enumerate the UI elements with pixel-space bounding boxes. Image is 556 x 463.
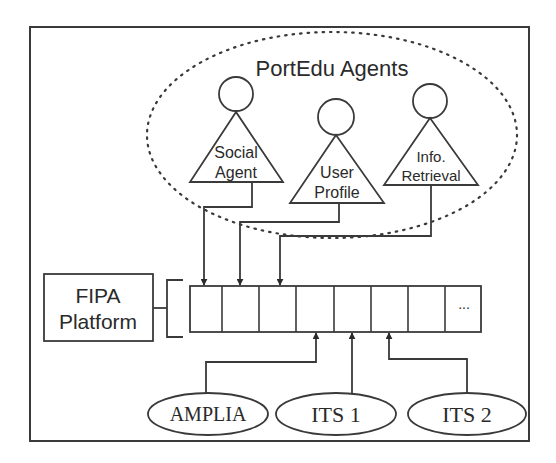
arrow-profile-to-queue bbox=[240, 203, 339, 285]
system-label: AMPLIA bbox=[170, 403, 247, 425]
agent-head-icon bbox=[219, 77, 253, 111]
agent-label-line2: Agent bbox=[215, 164, 257, 181]
system-label: ITS 1 bbox=[311, 402, 361, 427]
portedu-architecture-diagram: PortEdu Agents Social Agent User Profile… bbox=[0, 0, 556, 463]
agent-social-agent: Social Agent bbox=[190, 77, 283, 182]
agent-label-line2: Profile bbox=[314, 184, 359, 201]
system-amplia: AMPLIA bbox=[148, 393, 268, 435]
outer-frame bbox=[30, 27, 529, 441]
agent-user-profile: User Profile bbox=[290, 99, 384, 203]
arrow-its2-to-queue bbox=[389, 333, 467, 393]
agent-head-icon bbox=[413, 84, 447, 118]
system-its2: ITS 2 bbox=[408, 393, 526, 435]
agent-label-line1: User bbox=[320, 164, 354, 181]
agent-head-icon bbox=[318, 99, 354, 135]
system-label: ITS 2 bbox=[442, 402, 492, 427]
queue-box bbox=[190, 286, 481, 332]
agent-label-line2: Retrieval bbox=[401, 167, 460, 184]
platform-label-line2: Platform bbox=[59, 310, 137, 333]
bracket bbox=[167, 280, 183, 337]
arrow-amplia-to-queue bbox=[206, 333, 316, 393]
platform-label-line1: FIPA bbox=[75, 284, 120, 307]
fipa-platform: FIPA Platform bbox=[44, 274, 183, 341]
group-title: PortEdu Agents bbox=[256, 56, 409, 81]
agent-info-retrieval: Info. Retrieval bbox=[384, 84, 478, 185]
agent-label-line1: Info. bbox=[416, 148, 445, 165]
message-queue: ... bbox=[190, 286, 481, 332]
agent-label-line1: Social bbox=[214, 144, 258, 161]
queue-ellipsis: ... bbox=[458, 296, 470, 312]
arrow-social-to-queue bbox=[204, 182, 252, 285]
system-its1: ITS 1 bbox=[276, 393, 396, 435]
system-connectors bbox=[206, 333, 467, 393]
